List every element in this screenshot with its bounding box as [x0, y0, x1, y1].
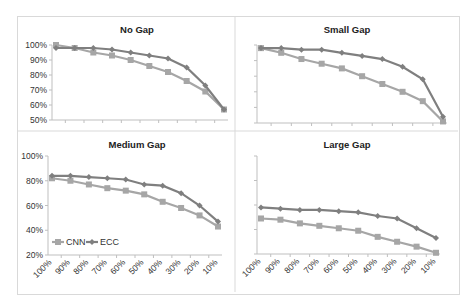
- diamond-marker: [109, 47, 115, 53]
- chart-large-gap: Large Gap100%90%80%70%60%50%40%30%20%10%: [240, 139, 440, 279]
- chart-no-gap: No Gap50%60%70%80%90%100%: [25, 24, 228, 125]
- chart-title: No Gap: [120, 24, 154, 35]
- x-tick-label: 50%: [341, 256, 360, 275]
- chart-title: Small Gap: [324, 24, 371, 35]
- series-cnn: [258, 215, 439, 255]
- diamond-marker: [123, 177, 129, 183]
- square-marker: [86, 181, 92, 187]
- series-ecc: [258, 45, 446, 120]
- diamond-marker: [336, 208, 342, 214]
- x-tick-label: 70%: [302, 256, 321, 275]
- diamond-marker: [104, 175, 110, 181]
- square-marker: [104, 185, 110, 191]
- chart-medium-gap: Medium Gap20%40%60%80%100%100%90%80%70%6…: [21, 139, 222, 280]
- y-tick-label: 60%: [26, 201, 43, 211]
- legend: CNNECC: [52, 237, 120, 247]
- square-marker: [128, 57, 134, 63]
- square-marker: [197, 212, 203, 218]
- series-ecc: [53, 45, 227, 113]
- y-tick-label: 40%: [26, 225, 43, 235]
- diamond-marker: [298, 47, 304, 53]
- y-tick-label: 100%: [21, 151, 43, 161]
- square-marker: [379, 81, 385, 87]
- y-tick-label: 80%: [26, 176, 43, 186]
- x-tick-label: 60%: [108, 257, 127, 276]
- diamond-marker: [316, 207, 322, 213]
- diamond-marker: [146, 53, 152, 59]
- x-tick-label: 30%: [163, 257, 182, 276]
- x-tick-label: 20%: [399, 256, 418, 275]
- y-tick-label: 70%: [30, 85, 47, 95]
- diamond-marker: [277, 206, 283, 212]
- y-tick-label: 100%: [25, 40, 47, 50]
- x-tick-label: 90%: [53, 257, 72, 276]
- x-tick-label: 100%: [31, 257, 54, 280]
- y-tick-label: 90%: [30, 55, 47, 65]
- x-tick-label: 40%: [145, 257, 164, 276]
- y-tick-label: 20%: [26, 250, 43, 260]
- legend-ecc-marker: [89, 239, 95, 245]
- y-tick-label: 60%: [30, 100, 47, 110]
- chart-grid: No Gap50%60%70%80%90%100%Small GapMedium…: [0, 0, 469, 305]
- series-cnn: [53, 42, 227, 113]
- series-cnn: [258, 45, 446, 124]
- diamond-marker: [128, 50, 134, 56]
- square-marker: [109, 53, 115, 59]
- chart-small-gap: Small Gap: [254, 24, 447, 126]
- square-marker: [433, 250, 439, 256]
- legend-cnn-label: CNN: [66, 237, 86, 247]
- legend-ecc-label: ECC: [100, 237, 120, 247]
- x-tick-label: 40%: [360, 256, 379, 275]
- chart-title: Medium Gap: [108, 139, 165, 150]
- square-marker: [146, 63, 152, 69]
- square-marker: [277, 217, 283, 223]
- square-marker: [420, 98, 426, 104]
- diamond-marker: [86, 174, 92, 180]
- square-marker: [414, 244, 420, 250]
- square-marker: [359, 73, 365, 79]
- square-marker: [316, 223, 322, 229]
- square-marker: [375, 234, 381, 240]
- square-marker: [123, 188, 129, 194]
- legend-cnn-marker: [55, 239, 61, 245]
- x-tick-label: 10%: [200, 257, 219, 276]
- x-tick-label: 10%: [418, 256, 437, 275]
- square-marker: [297, 220, 303, 226]
- x-tick-label: 80%: [71, 257, 90, 276]
- y-tick-label: 50%: [30, 115, 47, 125]
- diamond-marker: [375, 213, 381, 219]
- x-tick-label: 70%: [90, 257, 109, 276]
- square-marker: [141, 191, 147, 197]
- x-tick-label: 30%: [379, 256, 398, 275]
- series-ecc: [258, 204, 439, 241]
- square-marker: [258, 215, 264, 221]
- square-marker: [184, 78, 190, 84]
- square-marker: [319, 61, 325, 67]
- square-marker: [339, 65, 345, 71]
- square-marker: [394, 239, 400, 245]
- square-marker: [355, 228, 361, 234]
- diamond-marker: [258, 204, 264, 210]
- x-tick-label: 80%: [282, 256, 301, 275]
- square-marker: [298, 56, 304, 62]
- chart-title: Large Gap: [324, 139, 371, 150]
- x-tick-label: 60%: [321, 256, 340, 275]
- diamond-marker: [160, 183, 166, 189]
- x-tick-label: 20%: [182, 257, 201, 276]
- square-marker: [336, 225, 342, 231]
- diamond-marker: [355, 209, 361, 215]
- diamond-marker: [297, 207, 303, 213]
- y-tick-label: 80%: [30, 70, 47, 80]
- square-marker: [400, 89, 406, 95]
- square-marker: [160, 199, 166, 205]
- diamond-marker: [339, 50, 345, 56]
- x-tick-label: 90%: [263, 256, 282, 275]
- x-tick-label: 50%: [127, 257, 146, 276]
- diamond-marker: [359, 53, 365, 59]
- diamond-marker: [379, 56, 385, 62]
- diamond-marker: [319, 47, 325, 53]
- square-marker: [165, 69, 171, 75]
- x-tick-label: 100%: [240, 256, 263, 279]
- diamond-marker: [141, 181, 147, 187]
- square-marker: [178, 205, 184, 211]
